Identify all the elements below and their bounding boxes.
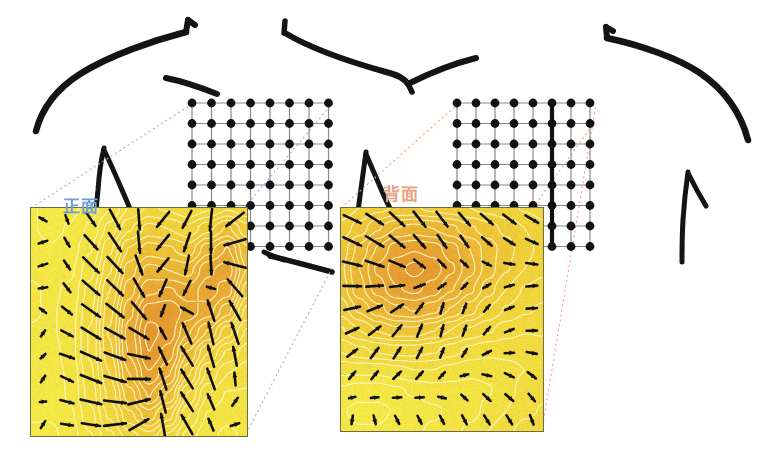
- front-heatmap-canvas: [31, 208, 247, 436]
- figure-canvas: 正面 背面: [0, 0, 782, 462]
- label-back: 背面: [383, 180, 419, 205]
- connector-front-top: [31, 104, 192, 208]
- connector-front-bottom: [246, 268, 332, 434]
- label-front: 正面: [63, 192, 99, 217]
- back-heatmap-canvas: [341, 208, 543, 431]
- front-heatmap-panel[interactable]: [30, 207, 248, 437]
- back-heatmap-panel[interactable]: [340, 207, 544, 432]
